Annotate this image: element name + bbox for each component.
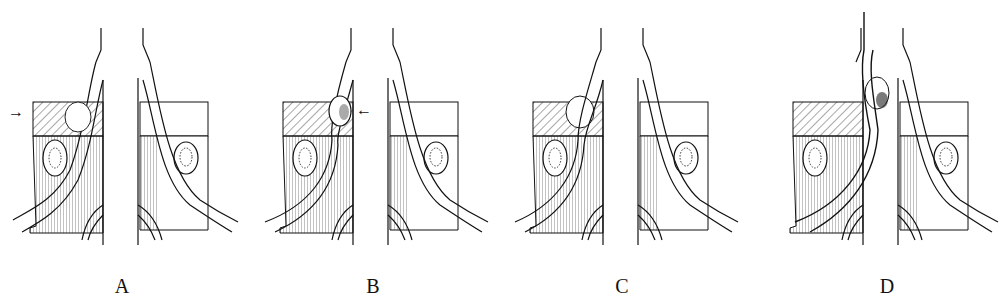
panel-b (265, 28, 488, 245)
panel-label-b: B (366, 275, 379, 298)
figure-canvas (0, 0, 1003, 301)
panel-label-d: D (880, 275, 894, 298)
arrow-right-icon: → (8, 103, 24, 121)
herniation-bulge (65, 102, 91, 132)
panel-label-a: A (115, 275, 129, 298)
panel-c (515, 28, 738, 245)
panel-a (13, 28, 238, 245)
panel-d (790, 12, 998, 245)
panel-label-c: C (615, 275, 628, 298)
arrow-left-icon: ← (356, 101, 372, 119)
